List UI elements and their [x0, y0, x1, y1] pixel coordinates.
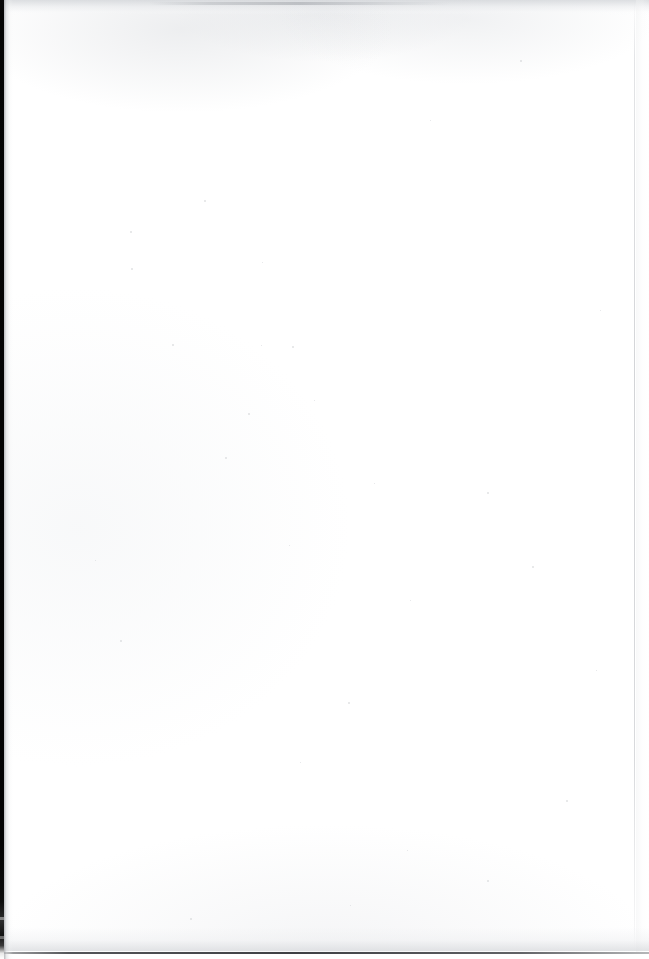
scanner-speck: [225, 457, 227, 459]
scanner-speck: [566, 800, 568, 802]
right-edge-fade: [636, 0, 649, 952]
scanner-speck: [532, 566, 534, 568]
scanner-speck: [374, 483, 375, 484]
scanner-speck: [314, 400, 315, 401]
scanned-page: [0, 0, 649, 959]
scanner-speck: [430, 120, 431, 121]
page-header: [60, 34, 600, 50]
scanner-speck: [204, 200, 206, 202]
scanner-speck: [131, 268, 133, 270]
scanner-speck: [95, 560, 96, 561]
left-gutter-break-upper: [0, 917, 4, 920]
scanner-speck: [350, 905, 351, 906]
page-body-text: [60, 60, 600, 890]
bottom-edge-margin: [4, 954, 649, 959]
scanner-speck: [172, 344, 174, 346]
scanner-speck: [190, 918, 192, 920]
scanner-speck: [596, 670, 597, 671]
scanner-speck: [248, 413, 250, 415]
scanner-speck: [520, 60, 522, 62]
scanner-speck: [261, 345, 262, 346]
left-gutter-break-lower: [0, 936, 4, 939]
bottom-edge-shading: [4, 927, 649, 951]
scanner-speck: [289, 545, 290, 546]
scanner-speck: [487, 492, 489, 494]
scanner-speck: [407, 850, 408, 851]
scanner-speck: [120, 640, 122, 642]
scanner-speck: [300, 762, 301, 763]
top-edge-streak: [150, 2, 450, 5]
scanner-speck: [262, 262, 263, 263]
scanner-speck: [410, 600, 411, 601]
right-edge-line: [634, 0, 635, 952]
scanner-speck: [130, 231, 132, 233]
left-gutter-band: [0, 0, 4, 959]
scanner-speck: [292, 346, 294, 348]
scanner-speck: [487, 880, 489, 882]
left-gutter-shadow: [4, 0, 13, 959]
scanner-speck: [600, 310, 601, 311]
scanner-speck: [348, 702, 350, 704]
page-number: [300, 905, 350, 921]
